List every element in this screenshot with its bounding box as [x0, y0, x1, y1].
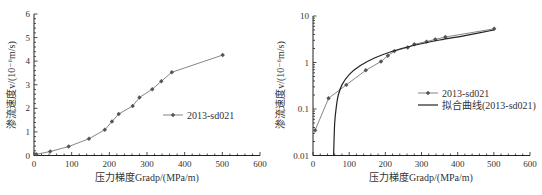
left-plot-area: [34, 53, 225, 157]
legend-label: 2013-sd021: [442, 88, 489, 99]
data-point-marker: [221, 53, 225, 57]
right-x-axis-label: 压力梯度Gradp/(MPa/m): [369, 171, 473, 184]
left-axes: 01002003004005006000123456: [26, 9, 268, 169]
y-tick-label: 1: [305, 58, 310, 68]
x-tick-label: 400: [451, 159, 465, 169]
legend-label: 拟合曲线(2013-sd021): [442, 99, 536, 112]
left-legend: 2013-sd021: [163, 110, 234, 121]
y-tick-label: 0.1: [298, 104, 309, 114]
x-tick-label: 100: [342, 159, 356, 169]
y-tick-label: 10: [300, 11, 310, 21]
x-tick-label: 0: [32, 159, 37, 169]
x-tick-label: 200: [103, 159, 117, 169]
x-tick-label: 300: [140, 159, 154, 169]
x-tick-label: 600: [253, 159, 267, 169]
data-point-marker: [171, 113, 175, 117]
x-tick-label: 400: [178, 159, 192, 169]
left-y-axis-label: 渗流速度v/(10⁻⁶m/s): [5, 41, 18, 129]
data-point-marker: [87, 137, 91, 141]
y-tick-label: 0: [26, 151, 31, 161]
y-tick-label: 4: [26, 56, 31, 66]
x-tick-label: 300: [415, 159, 429, 169]
right-axes: 01002003004005006000.010.1110: [293, 11, 537, 169]
series-line: [36, 55, 222, 154]
y-tick-label: 5: [26, 33, 31, 43]
left-x-axis-label: 压力梯度Gradp/(MPa/m): [95, 171, 199, 184]
y-tick-label: 0.01: [293, 151, 309, 161]
x-tick-label: 0: [311, 159, 316, 169]
data-point-marker: [48, 149, 52, 153]
right-y-axis-label: 渗流速度v/(10⁻⁶m/s): [274, 41, 287, 129]
x-tick-label: 100: [65, 159, 79, 169]
data-point-marker: [66, 144, 70, 148]
series-line: [315, 29, 494, 130]
data-point-marker: [426, 91, 430, 95]
x-tick-label: 200: [379, 159, 393, 169]
x-tick-label: 500: [487, 159, 501, 169]
right-legend: 2013-sd021拟合曲线(2013-sd021): [418, 88, 536, 112]
x-tick-label: 600: [523, 159, 537, 169]
y-tick-label: 2: [26, 103, 31, 113]
data-point-marker: [313, 128, 317, 132]
legend-label: 2013-sd021: [187, 110, 234, 121]
x-tick-label: 500: [216, 159, 230, 169]
left-chart: 01002003004005006000123456 2013-sd021 渗流…: [0, 0, 542, 195]
y-tick-label: 3: [26, 80, 31, 90]
y-tick-label: 6: [26, 9, 31, 19]
y-tick-label: 1: [26, 127, 31, 137]
